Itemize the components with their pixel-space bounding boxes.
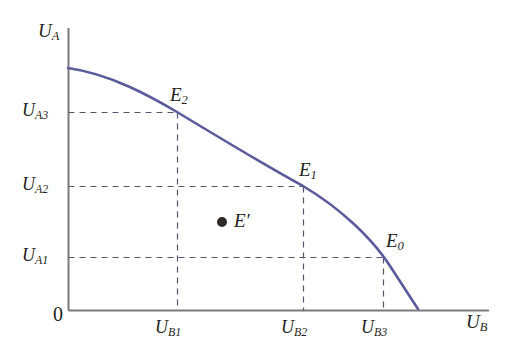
plot-canvas [0, 0, 515, 359]
e-prime-dot [217, 217, 227, 227]
point-label-e1: E1 [299, 160, 317, 181]
y-tick-label-ua2: UA2 [22, 175, 48, 195]
x-tick-label-ub1: UB1 [155, 318, 181, 338]
x-tick-label-ub3: UB3 [361, 318, 387, 338]
y-tick-label-ua3: UA3 [22, 101, 48, 121]
y-tick-label-ua1: UA1 [22, 246, 48, 266]
origin-label: 0 [53, 304, 63, 324]
x-axis-title: UB [466, 312, 487, 333]
x-tick-label-ub2: UB2 [281, 318, 307, 338]
y-axis-title: UA [38, 21, 59, 42]
point-label-e0: E0 [386, 231, 404, 252]
utility-possibility-frontier-curve [68, 68, 418, 309]
point-label-e2: E2 [170, 85, 188, 106]
utility-possibility-frontier-figure: UA UB 0 UA3 UA2 UA1 UB1 UB2 UB3 E2 E1 E0… [0, 0, 515, 359]
point-label-e-prime: E′ [234, 211, 250, 230]
